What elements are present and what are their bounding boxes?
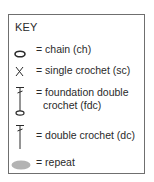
fdc-label-line2: crochet (fdc) (36, 99, 129, 112)
foundation-double-crochet-label: = foundation double crochet (fdc) (36, 86, 129, 112)
key-item-foundation-double-crochet: = foundation double crochet (fdc) (9, 86, 144, 118)
foundation-double-crochet-icon (13, 86, 31, 122)
key-item-repeat: = repeat (9, 156, 144, 170)
stitch-key-box: KEY = chain (ch) = single crochet (sc) (8, 14, 145, 174)
key-item-single-crochet: = single crochet (sc) (9, 64, 144, 78)
double-crochet-icon (13, 124, 31, 154)
repeat-label: = repeat (36, 156, 75, 169)
repeat-icon (11, 157, 29, 175)
key-item-double-crochet: = double crochet (dc) (9, 124, 144, 150)
single-crochet-label: = single crochet (sc) (36, 64, 130, 77)
key-item-chain: = chain (ch) (9, 43, 144, 57)
fdc-label-line1: = foundation double (36, 86, 129, 98)
chain-label: = chain (ch) (36, 43, 91, 56)
single-crochet-icon (13, 64, 31, 82)
key-title: KEY (15, 21, 38, 33)
chain-icon (13, 45, 31, 63)
double-crochet-label: = double crochet (dc) (36, 129, 135, 142)
